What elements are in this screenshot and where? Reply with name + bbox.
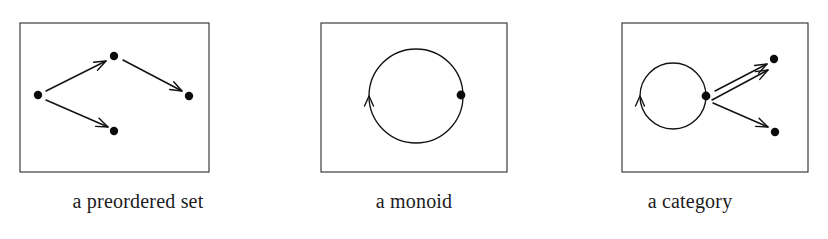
panel-monoid: a monoid xyxy=(276,0,552,239)
arrow-object-to-upper xyxy=(715,64,767,91)
panel-caption-preordered-set: a preordered set xyxy=(0,186,276,216)
arrow-object-to-lower xyxy=(713,103,768,127)
panel-frame xyxy=(20,23,209,172)
node-left xyxy=(34,91,42,99)
node-loop-object xyxy=(702,92,711,101)
node-right xyxy=(185,92,193,100)
arrow-left-to-bottom xyxy=(46,100,108,127)
panel-preordered-set: a preordered set xyxy=(0,0,276,239)
panel-caption-category: a category xyxy=(552,186,828,216)
arrow-left-to-top xyxy=(46,61,106,91)
node-lower-right xyxy=(771,128,779,136)
arrow-top-to-right xyxy=(123,60,182,91)
arrow-object-to-upper-alt xyxy=(712,70,768,100)
diagram-monoid xyxy=(276,0,552,186)
node-upper-right xyxy=(770,55,778,63)
loop-endomorphism xyxy=(640,63,706,129)
panel-caption-monoid: a monoid xyxy=(276,186,552,216)
arrow-top-to-right-arrowhead xyxy=(170,82,182,91)
panel-category: a category xyxy=(552,0,828,239)
arrow-object-to-upper-alt-arrowhead xyxy=(756,70,768,79)
figure-row: a preordered seta monoida category xyxy=(0,0,828,239)
diagram-preordered-set xyxy=(0,0,276,186)
panel-frame xyxy=(622,23,808,172)
node-single xyxy=(457,91,466,100)
node-bottom xyxy=(110,127,118,135)
loop-identity xyxy=(369,49,463,143)
panel-frame xyxy=(321,23,507,172)
node-top xyxy=(110,52,118,60)
diagram-category xyxy=(552,0,828,186)
